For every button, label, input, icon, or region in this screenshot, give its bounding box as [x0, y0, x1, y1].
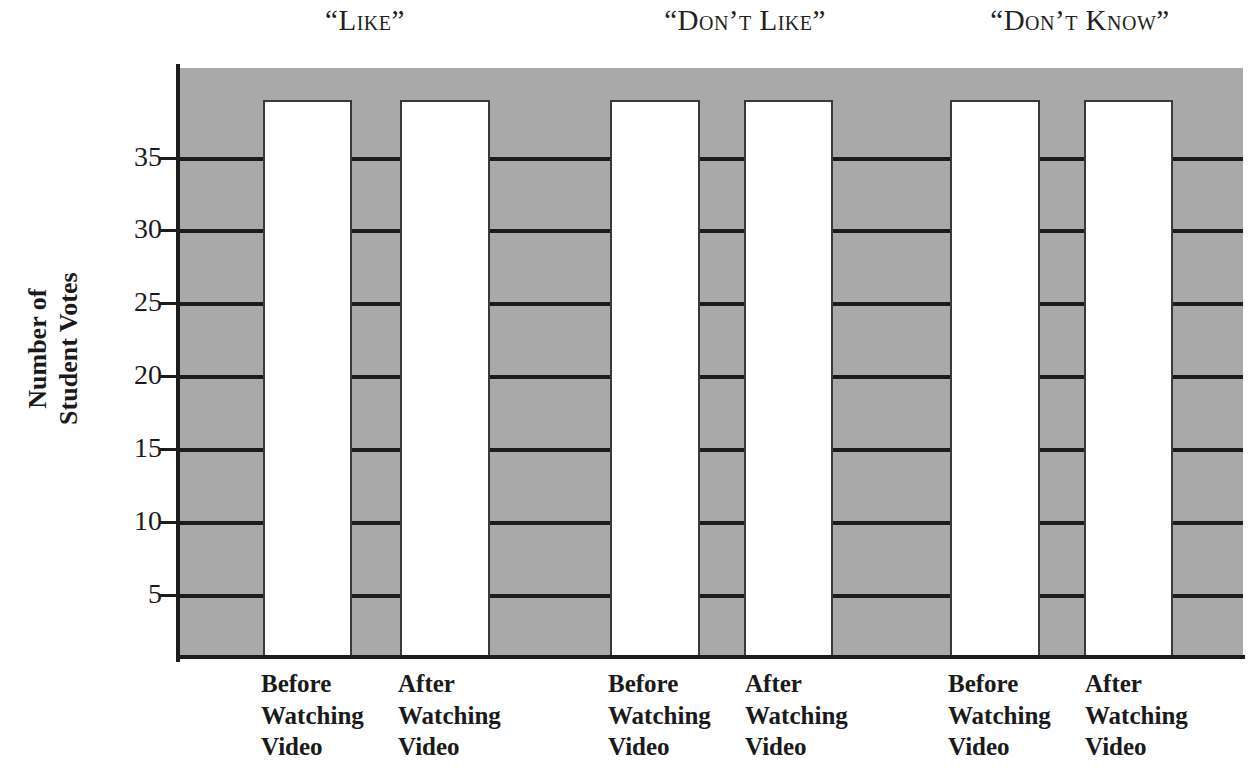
- tick-label-5: 5: [92, 580, 162, 608]
- x-label-dont-like-before-line1: Before: [608, 668, 711, 700]
- group-header-dont-know-open-quote: “: [990, 4, 1003, 36]
- group-header-dont-know-text: Don’t Know: [1004, 4, 1157, 36]
- tick-5: [160, 594, 182, 597]
- bar-like-before-outline: [263, 100, 352, 658]
- x-label-dont-know-before-line3: Video: [948, 731, 1051, 763]
- x-label-like-after-line2: Watching: [398, 700, 501, 732]
- bar-dont-like-after-outline: [744, 100, 833, 658]
- y-axis-title: Number of Student Votes: [23, 249, 84, 449]
- group-header-like-open-quote: “: [325, 4, 338, 36]
- tick-label-10: 10: [92, 507, 162, 535]
- tick-35: [160, 157, 182, 160]
- tick-20: [160, 375, 182, 378]
- tick-25: [160, 302, 182, 305]
- group-header-dont-like-text: Don’t Like: [678, 4, 813, 36]
- tick-label-30: 30: [92, 215, 162, 243]
- x-label-dont-like-after: After Watching Video: [745, 668, 848, 763]
- tick-label-20: 20: [92, 361, 162, 389]
- x-label-dont-like-before: Before Watching Video: [608, 668, 711, 763]
- tick-label-35: 35: [92, 143, 162, 171]
- x-label-dont-like-before-line2: Watching: [608, 700, 711, 732]
- tick-10: [160, 521, 182, 524]
- group-header-dont-know-close-quote: ”: [1156, 4, 1169, 36]
- x-label-like-before-line3: Video: [261, 731, 364, 763]
- x-label-dont-know-after: After Watching Video: [1085, 668, 1188, 763]
- group-header-like-close-quote: ”: [392, 4, 405, 36]
- y-axis-title-line2: Student Votes: [54, 249, 85, 449]
- tick-label-25: 25: [92, 288, 162, 316]
- x-label-dont-know-after-line2: Watching: [1085, 700, 1188, 732]
- tick-30: [160, 229, 182, 232]
- x-label-like-after: After Watching Video: [398, 668, 501, 763]
- y-axis-title-line1: Number of: [23, 249, 54, 449]
- x-label-like-before-line2: Watching: [261, 700, 364, 732]
- group-header-like-text: Like: [338, 4, 391, 36]
- group-header-dont-like-close-quote: ”: [813, 4, 826, 36]
- x-label-dont-know-before-line1: Before: [948, 668, 1051, 700]
- x-label-dont-like-after-line1: After: [745, 668, 848, 700]
- x-label-like-after-line1: After: [398, 668, 501, 700]
- bar-dont-know-after-outline: [1084, 100, 1173, 658]
- bar-like-after-outline: [400, 100, 490, 658]
- group-header-dont-like-open-quote: “: [664, 4, 677, 36]
- y-axis-line: [176, 64, 180, 662]
- x-label-dont-like-after-line3: Video: [745, 731, 848, 763]
- group-header-dont-like: “Don’t Like”: [610, 6, 880, 35]
- x-label-like-before-line1: Before: [261, 668, 364, 700]
- x-label-like-before: Before Watching Video: [261, 668, 364, 763]
- tick-label-15: 15: [92, 434, 162, 462]
- group-header-dont-know: “Don’t Know”: [940, 6, 1220, 35]
- x-label-dont-like-after-line2: Watching: [745, 700, 848, 732]
- x-label-dont-know-before: Before Watching Video: [948, 668, 1051, 763]
- x-axis-line: [176, 655, 1245, 659]
- tick-15: [160, 448, 182, 451]
- x-label-dont-like-before-line3: Video: [608, 731, 711, 763]
- x-label-dont-know-after-line3: Video: [1085, 731, 1188, 763]
- x-label-like-after-line3: Video: [398, 731, 501, 763]
- x-label-dont-know-before-line2: Watching: [948, 700, 1051, 732]
- bar-dont-know-before-outline: [950, 100, 1040, 658]
- bar-dont-like-before-outline: [610, 100, 700, 658]
- chart-figure: “Like” “Don’t Like” “Don’t Know” Number …: [0, 0, 1251, 773]
- group-header-like: “Like”: [245, 6, 485, 35]
- x-label-dont-know-after-line1: After: [1085, 668, 1188, 700]
